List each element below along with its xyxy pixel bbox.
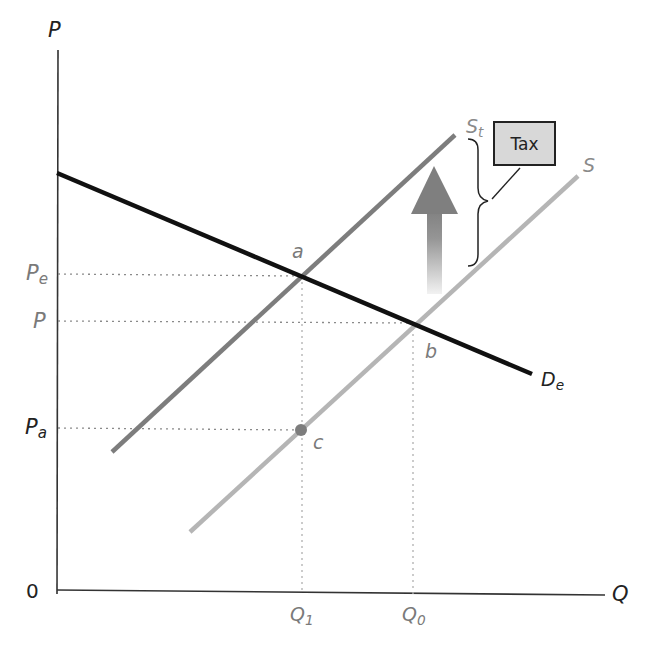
quantity-axis-label: Q [612, 584, 629, 605]
quantity-q0-sub: 0 [417, 612, 426, 628]
price-pa-label: Pa [25, 417, 47, 441]
p-guide-line [58, 321, 413, 323]
supply-with-tax-label: St [466, 117, 483, 140]
quantity-q1-label: Q1 [290, 605, 314, 628]
tax-label-text: Tax [510, 134, 538, 154]
supply-with-tax-main: S [466, 115, 478, 137]
quantity-q1-sub: 1 [305, 612, 314, 628]
tax-incidence-diagram: P Q 0 Pe P Pa Q1 Q0 St S De a b c Tax [0, 0, 648, 645]
supply-with-tax-sub: t [478, 124, 483, 140]
point-b-label: b [425, 342, 437, 361]
tax-brace-icon [468, 139, 488, 266]
demand-curve [57, 173, 532, 374]
y-axis [57, 50, 58, 594]
origin-label: 0 [26, 581, 39, 601]
demand-main: D [541, 368, 556, 390]
tax-callout-line [492, 168, 520, 199]
point-a-label: a [292, 242, 304, 261]
price-pe-sub: e [39, 270, 48, 288]
quantity-q0-label: Q0 [402, 605, 426, 628]
price-pe-main: P [26, 261, 39, 285]
pa-guide-line [58, 428, 301, 430]
quantity-q0-main: Q [402, 603, 417, 625]
point-c-marker [295, 424, 307, 436]
x-axis [57, 590, 605, 595]
price-pa-main: P [25, 415, 38, 439]
supply-with-tax-curve [112, 135, 455, 452]
point-c-label: c [313, 433, 323, 452]
pe-guide-line [58, 274, 301, 276]
demand-sub: e [556, 377, 564, 393]
tax-label-box: Tax [493, 121, 556, 166]
diagram-canvas [0, 0, 648, 645]
price-pa-sub: a [38, 424, 47, 442]
price-axis-label: P [48, 20, 61, 41]
price-p-label: P [33, 311, 46, 332]
supply-curve [190, 176, 578, 532]
price-pe-label: Pe [26, 263, 48, 287]
price-p-main: P [33, 309, 46, 333]
supply-label: S [583, 156, 595, 175]
quantity-q1-main: Q [290, 603, 305, 625]
demand-label: De [541, 370, 564, 393]
tax-shift-arrow-icon [411, 166, 458, 294]
